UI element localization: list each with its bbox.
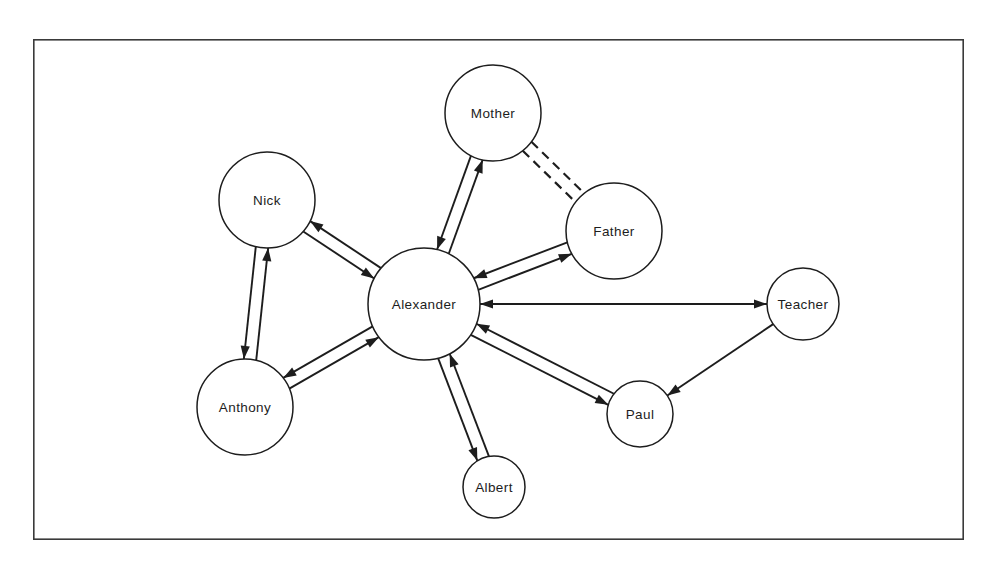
node-label-alexander: Alexander — [392, 297, 456, 312]
node-label-paul: Paul — [626, 407, 655, 422]
edge-alexander-father — [474, 242, 572, 290]
alexander-anthony-fwd-line — [283, 326, 373, 378]
node-alexander[interactable]: Alexander — [368, 248, 480, 360]
alexander-nick-fwd-arrowhead — [310, 221, 323, 232]
edge-teacher-paul — [667, 324, 773, 395]
edge-alexander-albert — [438, 354, 489, 461]
teacher-paul-line — [667, 324, 773, 395]
alexander-paul-rev-line — [476, 324, 614, 394]
node-father[interactable]: Father — [566, 183, 662, 279]
node-label-anthony: Anthony — [219, 400, 271, 415]
sociogram-graph: NickMotherFatherAlexanderAnthonyAlbertPa… — [0, 0, 997, 571]
edge-alexander-nick — [303, 221, 381, 278]
alexander-mother-rev-arrowhead-reverse — [437, 236, 446, 250]
alexander-albert-fwd-arrowhead — [468, 447, 477, 461]
alexander-albert-rev-arrowhead-reverse — [450, 354, 459, 368]
node-label-teacher: Teacher — [778, 297, 829, 312]
teacher-alexander-arrowhead — [480, 299, 493, 308]
nick-anthony-fwd-line — [244, 247, 256, 359]
node-mother[interactable]: Mother — [445, 65, 541, 161]
alexander-anthony-rev-line — [289, 337, 379, 389]
node-label-mother: Mother — [471, 106, 516, 121]
alexander-paul-rev-arrowhead-reverse — [476, 324, 490, 334]
edge-nick-anthony — [241, 247, 272, 361]
node-anthony[interactable]: Anthony — [197, 359, 293, 455]
alexander-paul-fwd-line — [471, 335, 609, 405]
nick-anthony-rev-arrowhead-reverse — [262, 248, 271, 261]
alexander-nick-rev-arrowhead-reverse — [361, 267, 374, 278]
alexander-paul-fwd-arrowhead — [595, 395, 609, 405]
edge-alexander-paul — [471, 324, 614, 405]
edge-alexander-mother — [437, 156, 483, 254]
alexander-father-fwd-arrowhead — [558, 254, 572, 263]
nick-anthony-fwd-arrowhead — [241, 346, 250, 359]
node-teacher[interactable]: Teacher — [767, 268, 839, 340]
node-nick[interactable]: Nick — [219, 152, 315, 248]
diagram-canvas: NickMotherFatherAlexanderAnthonyAlbertPa… — [0, 0, 997, 571]
node-label-nick: Nick — [253, 193, 281, 208]
node-paul[interactable]: Paul — [607, 381, 673, 447]
node-label-albert: Albert — [475, 480, 513, 495]
node-label-father: Father — [593, 224, 635, 239]
alexander-anthony-fwd-arrowhead — [283, 367, 297, 377]
alexander-mother-fwd-line — [449, 160, 483, 254]
nick-anthony-rev-line — [256, 248, 268, 360]
alexander-mother-rev-line — [437, 156, 471, 250]
alexander-father-rev-arrowhead-reverse — [474, 269, 488, 278]
edge-alexander-anthony — [283, 326, 379, 388]
node-layer: NickMotherFatherAlexanderAnthonyAlbertPa… — [197, 65, 839, 518]
node-albert[interactable]: Albert — [463, 456, 525, 518]
teacher-paul-arrowhead — [667, 384, 680, 395]
alexander-anthony-rev-arrowhead-reverse — [365, 337, 379, 347]
edge-mother-father — [523, 142, 585, 202]
alexander-mother-fwd-arrowhead — [474, 160, 483, 174]
